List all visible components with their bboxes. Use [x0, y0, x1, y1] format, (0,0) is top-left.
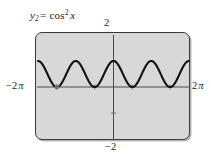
minimum-point-marker [54, 85, 59, 90]
x-axis-max-pi-symbol: π [198, 80, 203, 91]
equation-exponent: 2 [65, 8, 69, 17]
plot-area [36, 33, 191, 141]
y-axis-max-label: 2 [104, 18, 109, 29]
x-axis-min-pi-symbol: π [18, 80, 23, 91]
x-axis-min-label: −2π [6, 81, 23, 92]
calculator-screen [35, 32, 190, 140]
equation-equals-sign: = [40, 9, 46, 21]
equation-function-name: cos [49, 9, 64, 21]
y-axis-min-label: −2 [105, 142, 116, 153]
axes-group [37, 35, 190, 139]
equation-argument: x [70, 9, 75, 21]
equation-lhs-subscript: 2 [35, 14, 39, 23]
equation-label: y2=cos2x [30, 8, 75, 23]
figure-container: y2=cos2x 2 −2 −2π 2π [0, 0, 211, 159]
x-axis-max-label: 2π [192, 81, 204, 92]
x-axis-min-number: −2 [6, 80, 17, 91]
x-axis-max-number: 2 [192, 80, 197, 91]
